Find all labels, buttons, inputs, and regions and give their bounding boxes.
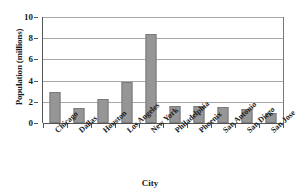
bar-chart: Population (millions) 0246810 ChicagoDal… [0, 0, 300, 195]
bar-slot [211, 17, 235, 123]
x-axis-title: City [0, 178, 300, 188]
y-tick-label: 2 [29, 97, 34, 107]
bar-slot [115, 17, 139, 123]
y-tick-label: 0 [29, 118, 34, 128]
bar [50, 92, 61, 123]
bar-slot [67, 17, 91, 123]
y-tick-mark [34, 81, 38, 82]
y-tick-mark [34, 102, 38, 103]
y-tick-label: 8 [29, 33, 34, 43]
y-axis-tick-labels: 0246810 [0, 17, 38, 123]
y-tick-mark [34, 17, 38, 18]
y-tick-mark [34, 123, 38, 124]
y-tick-label: 4 [29, 76, 34, 86]
x-axis-category-labels: ChicagoDallasHoustonLos AngelesNew YorkP… [43, 128, 283, 176]
y-tick-label: 6 [29, 54, 34, 64]
y-tick-mark [34, 59, 38, 60]
y-tick-mark [34, 38, 38, 39]
y-tick-label: 10 [24, 12, 33, 22]
bar-slot [43, 17, 67, 123]
bar [98, 99, 109, 123]
bar-slot [91, 17, 115, 123]
